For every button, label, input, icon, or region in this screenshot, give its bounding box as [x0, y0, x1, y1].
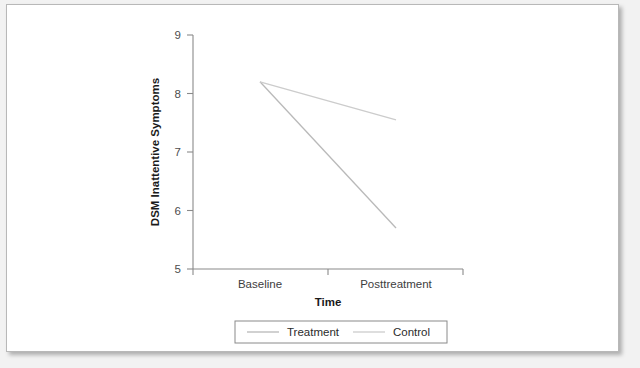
x-category-label-posttreatment: Posttreatment	[360, 278, 432, 290]
x-axis-title: Time	[315, 296, 342, 308]
chart-legend: Treatment Control	[235, 321, 447, 343]
y-tick-label-9: 9	[175, 29, 181, 41]
y-tick-label-6: 6	[175, 205, 181, 217]
x-category-label-baseline: Baseline	[238, 278, 282, 290]
chart-plot-area: 9 8 7 6 5 DSM Inattentive Symptoms Basel…	[7, 5, 620, 353]
legend-label-treatment: Treatment	[287, 326, 340, 338]
y-tick-label-7: 7	[175, 146, 181, 158]
legend-label-control: Control	[393, 326, 430, 338]
series-line-treatment	[260, 82, 396, 228]
line-chart: 9 8 7 6 5 DSM Inattentive Symptoms Basel…	[7, 5, 620, 353]
y-tick-label-8: 8	[175, 88, 181, 100]
series-line-control	[260, 82, 396, 120]
series-group	[260, 82, 396, 228]
y-tick-label-5: 5	[175, 263, 181, 275]
screenshot-root: 9 8 7 6 5 DSM Inattentive Symptoms Basel…	[0, 0, 640, 368]
figure-panel: 9 8 7 6 5 DSM Inattentive Symptoms Basel…	[6, 4, 619, 352]
y-axis-title: DSM Inattentive Symptoms	[149, 78, 161, 226]
